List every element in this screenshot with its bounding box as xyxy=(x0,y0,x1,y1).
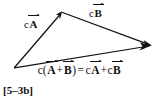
label-vector-cb: cB xyxy=(89,8,102,19)
label-vector-ca-symbol: A xyxy=(29,19,38,30)
vector-cb-arrow xyxy=(63,13,153,48)
vector-figure: cA cB c(A+B)=cA+cB [5–3b] xyxy=(0,0,159,102)
equation-term-a: A xyxy=(47,65,56,77)
vector-cb-shaft xyxy=(63,13,147,44)
equation-rhs-vector-b: B xyxy=(113,65,122,77)
equation-rhs-vector-a: A xyxy=(91,65,100,77)
distributive-law-equation: c(A+B)=cA+cB xyxy=(0,65,159,77)
equation-term-b: B xyxy=(64,65,73,77)
label-vector-ca: cA xyxy=(24,19,38,30)
figure-number-tag: [5–3b] xyxy=(3,85,33,96)
equation-equals-sign: = xyxy=(76,64,86,76)
label-vector-cb-symbol: B xyxy=(94,8,102,19)
equation-inner-plus: + xyxy=(56,64,64,76)
